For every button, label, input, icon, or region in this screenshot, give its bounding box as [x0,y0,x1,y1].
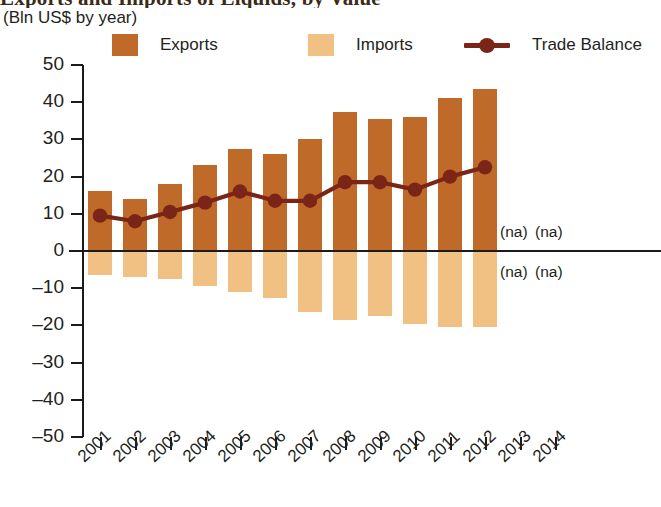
page-title-text: Exports and Imports of Liquids, by Value [0,0,381,8]
y-axis-label--30: –30 [6,351,64,373]
bar-imports-2004 [193,251,217,286]
y-tick--40 [71,399,83,401]
y-axis-label-10: 10 [6,202,64,224]
bar-imports-2001 [88,251,112,275]
legend-label-imports: Imports [356,35,413,55]
bar-exports-2009 [368,119,392,251]
bar-imports-2009 [368,251,392,316]
y-tick--20 [71,324,83,326]
bar-exports-2002 [123,199,147,251]
y-tick-30 [71,138,83,140]
bar-imports-2010 [403,251,427,324]
bar-exports-2005 [228,149,252,251]
trade-balance-line-icon [464,34,510,56]
y-tick-10 [71,213,83,215]
chart-legend: Exports Imports Trade Balance [112,30,632,60]
legend-item-imports: Imports [308,30,413,60]
na-label-2014-below-axis: (na) [535,263,563,281]
y-axis-label--50: –50 [6,425,64,447]
x-axis-labels: 2001200220032004200520062007200820092010… [0,452,644,507]
page-title: Exports and Imports of Liquids, by Value [0,0,644,8]
bar-exports-2011 [438,98,462,251]
y-axis-label-20: 20 [6,165,64,187]
y-tick--10 [71,287,83,289]
bar-imports-2002 [123,251,147,277]
legend-item-exports: Exports [112,30,218,60]
y-tick-50 [71,64,83,66]
bar-exports-2006 [263,154,287,251]
y-tick-20 [71,176,83,178]
y-axis-label--20: –20 [6,313,64,335]
legend-label-trade-balance: Trade Balance [532,35,642,55]
bar-imports-2011 [438,251,462,327]
y-axis-label-50: 50 [6,53,64,75]
y-axis-label--40: –40 [6,388,64,410]
bar-exports-2012 [473,89,497,251]
legend-item-trade-balance: Trade Balance [464,30,642,60]
plot-area [83,65,572,437]
na-label-2013-below-axis: (na) [500,263,528,281]
bar-imports-2005 [228,251,252,292]
na-label-2013-above-axis: (na) [500,223,528,241]
bar-exports-2001 [88,191,112,251]
bar-exports-2004 [193,165,217,251]
y-axis-label--10: –10 [6,276,64,298]
chart-subtitle: (Bln US$ by year) [3,8,137,28]
exports-swatch-icon [112,34,138,56]
y-axis-label-30: 30 [6,127,64,149]
bar-exports-2003 [158,184,182,251]
bar-imports-2006 [263,251,287,298]
y-tick--50 [71,436,83,438]
zero-axis-line [69,250,661,253]
bar-imports-2012 [473,251,497,327]
imports-swatch-icon [308,34,334,56]
legend-label-exports: Exports [160,35,218,55]
na-label-2014-above-axis: (na) [535,223,563,241]
y-tick--30 [71,362,83,364]
bar-imports-2008 [333,251,357,320]
bar-exports-2010 [403,117,427,251]
y-axis-label-0: 0 [6,239,64,261]
y-tick-40 [71,101,83,103]
bar-imports-2003 [158,251,182,279]
bar-exports-2007 [298,139,322,251]
bar-exports-2008 [333,112,357,252]
y-axis-label-40: 40 [6,90,64,112]
bar-imports-2007 [298,251,322,312]
